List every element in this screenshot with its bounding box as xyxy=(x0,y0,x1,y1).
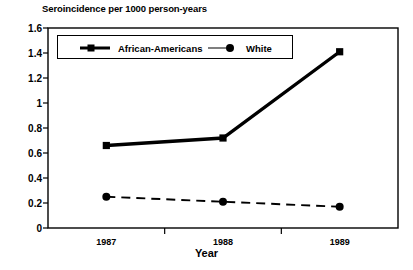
chart-figure: Seroincidence per 1000 person-years 00.2… xyxy=(0,0,413,270)
data-point-marker xyxy=(336,48,343,55)
legend: African-Americans White xyxy=(57,35,293,59)
legend-item-white: White xyxy=(208,36,272,60)
x-tick-label: 1988 xyxy=(213,237,233,247)
y-tick-label: 0.4 xyxy=(28,173,42,184)
y-tick-label: 0 xyxy=(36,223,42,234)
x-axis-label: Year xyxy=(0,247,413,259)
y-tick-label: 1 xyxy=(36,98,42,109)
y-tick-label: 1.4 xyxy=(28,48,42,59)
y-tick-label: 1.6 xyxy=(28,23,42,34)
x-tick-label: 1987 xyxy=(96,237,116,247)
y-tick-label: 0.8 xyxy=(28,123,42,134)
chart-title: Seroincidence per 1000 person-years xyxy=(42,3,207,14)
y-tick-label: 0.2 xyxy=(28,198,42,209)
x-axis-ticks xyxy=(165,228,282,234)
y-tick-label: 0.6 xyxy=(28,148,42,159)
legend-swatch-square-solid-icon xyxy=(80,42,110,54)
data-point-marker xyxy=(219,198,227,206)
data-point-marker xyxy=(102,193,110,201)
y-tick-label: 1.2 xyxy=(28,73,42,84)
data-point-marker xyxy=(103,142,110,149)
legend-swatch-circle-dashed-icon xyxy=(208,42,238,54)
data-point-marker xyxy=(336,203,344,211)
x-tick-label: 1989 xyxy=(330,237,350,247)
legend-item-african-americans: African-Americans xyxy=(80,36,202,60)
legend-label-african-americans: African-Americans xyxy=(118,43,202,54)
legend-label-white: White xyxy=(246,43,272,54)
data-point-marker xyxy=(219,134,226,141)
y-axis-ticks xyxy=(43,28,48,228)
